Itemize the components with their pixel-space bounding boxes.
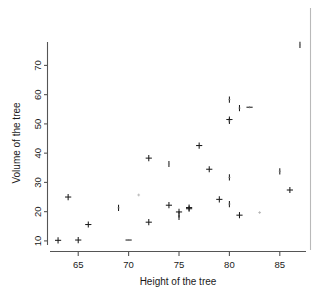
x-tick-label: 65 — [73, 259, 84, 270]
data-point — [186, 204, 192, 210]
data-point — [55, 237, 61, 243]
y-tick-label: 70 — [33, 60, 44, 71]
data-point — [228, 174, 230, 180]
data-point — [299, 42, 301, 48]
x-tick-label: 80 — [224, 259, 235, 270]
data-point — [279, 168, 281, 174]
data-point — [166, 202, 172, 208]
data-point — [196, 142, 202, 148]
data-point — [228, 118, 230, 124]
data-point — [168, 161, 170, 167]
y-tick-label: 50 — [33, 119, 44, 130]
data-points-layer — [55, 42, 301, 244]
x-tick-label: 85 — [275, 259, 286, 270]
data-point — [236, 212, 242, 218]
data-point — [238, 105, 240, 111]
data-point — [137, 194, 140, 197]
y-tick-label: 30 — [33, 177, 44, 188]
data-point — [228, 97, 230, 103]
y-tick-label: 40 — [33, 148, 44, 159]
data-point — [216, 196, 222, 202]
data-point — [146, 219, 152, 225]
x-axis-title: Height of the tree — [140, 276, 217, 287]
y-tick-label: 10 — [33, 236, 44, 247]
x-tick-label: 70 — [123, 259, 134, 270]
data-point — [118, 205, 120, 211]
y-axis-title: Volume of the tree — [11, 102, 22, 184]
data-point — [206, 166, 212, 172]
data-point — [126, 239, 132, 241]
scatter-plot-figure: 10203040506070 6570758085 Volume of the … — [0, 0, 323, 303]
y-tick-label: 20 — [33, 206, 44, 217]
data-point — [146, 155, 152, 161]
data-point — [85, 221, 91, 227]
chart-canvas: 10203040506070 6570758085 Volume of the … — [0, 0, 323, 303]
x-tick-label: 75 — [174, 259, 185, 270]
data-point — [258, 211, 261, 214]
data-point — [287, 187, 293, 193]
data-point — [246, 106, 252, 108]
y-axis-ticks: 10203040506070 — [33, 60, 48, 246]
data-point — [75, 237, 81, 243]
x-axis-ticks: 6570758085 — [73, 252, 285, 271]
y-tick-label: 60 — [33, 89, 44, 100]
data-point — [228, 201, 230, 207]
data-point — [65, 194, 71, 200]
